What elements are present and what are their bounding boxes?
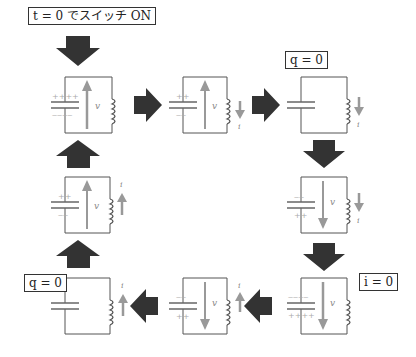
svg-text:++: ++ (176, 92, 189, 101)
svg-text:i: i (357, 216, 360, 225)
svg-text:v: v (94, 201, 99, 211)
circuit-state-3: i (287, 77, 364, 133)
start-label: t = 0 でスイッチ ON (28, 7, 156, 25)
svg-text:i: i (120, 180, 123, 189)
svg-text:++++: ++++ (288, 311, 315, 320)
svg-text:v: v (330, 197, 335, 207)
arrow-right-icon (252, 88, 280, 122)
svg-text:‒‒: ‒‒ (176, 292, 186, 301)
circuit-state-1: ++++ ‒‒‒‒ v (51, 77, 115, 133)
circuit-state-5: ‒‒‒‒ ++++ v (287, 278, 350, 334)
svg-text:v: v (95, 101, 100, 111)
svg-text:++: ++ (176, 312, 189, 321)
svg-text:i: i (357, 120, 360, 129)
svg-text:‒‒: ‒‒ (294, 192, 304, 201)
arrow-right-icon (134, 88, 162, 122)
circuit-state-4: ‒‒ ++ v i (287, 177, 364, 233)
circuit-state-2: ++ ‒‒ v i (169, 77, 245, 133)
arrow-down-icon (56, 36, 100, 66)
circuit-state-8: ++ ‒‒ v i (51, 177, 127, 233)
svg-text:++: ++ (294, 211, 307, 220)
svg-text:v: v (212, 101, 217, 111)
svg-text:v: v (212, 298, 217, 308)
arrow-down-icon (303, 140, 345, 168)
arrow-up-icon (56, 240, 100, 268)
i-zero-label: i = 0 (359, 273, 398, 291)
circuit-state-6: ‒‒ ++ v i (169, 278, 245, 334)
arrow-left-icon (130, 289, 158, 323)
svg-text:++: ++ (58, 192, 71, 201)
q-zero-label-top: q = 0 (285, 51, 328, 69)
q-zero-label-bottom: q = 0 (24, 274, 67, 292)
svg-text:‒‒‒‒: ‒‒‒‒ (52, 110, 72, 119)
block-arrows (56, 36, 345, 323)
svg-text:i: i (238, 122, 241, 131)
svg-text:‒‒: ‒‒ (176, 110, 186, 119)
svg-text:i: i (121, 281, 124, 290)
svg-text:++++: ++++ (52, 92, 79, 101)
lc-oscillation-diagram: ++++ ‒‒‒‒ v ++ ‒‒ v i i ‒‒ ++ (0, 0, 416, 357)
svg-text:i: i (238, 281, 241, 290)
arrow-left-icon (244, 289, 272, 323)
svg-text:‒‒‒‒: ‒‒‒‒ (288, 292, 308, 301)
arrow-down-icon (303, 243, 345, 271)
svg-text:v: v (330, 298, 335, 308)
arrow-up-icon (56, 140, 100, 168)
svg-text:‒‒: ‒‒ (58, 210, 68, 219)
